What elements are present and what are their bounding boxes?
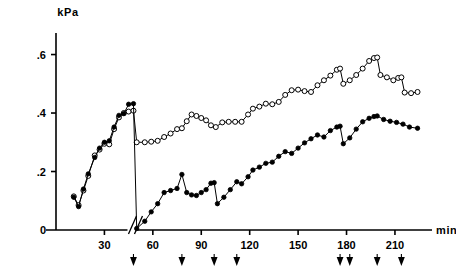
data-point-filled — [131, 101, 135, 105]
data-point-open — [220, 120, 225, 125]
data-point-filled — [235, 180, 239, 184]
arrow-head-icon — [374, 257, 381, 266]
data-point-filled — [264, 161, 268, 165]
data-point-filled — [239, 182, 243, 186]
data-point-open — [360, 66, 365, 71]
data-point-filled — [135, 226, 139, 230]
data-point-filled — [102, 140, 106, 144]
data-point-open — [184, 119, 189, 124]
data-point-filled — [354, 127, 358, 131]
data-point-open — [194, 113, 199, 118]
data-point-filled — [122, 111, 126, 115]
data-point-filled — [381, 117, 385, 121]
event-arrow-marker — [178, 254, 185, 266]
event-arrow-marker — [233, 254, 240, 266]
series-line — [74, 57, 418, 205]
arrow-head-icon — [211, 257, 218, 266]
x-tick-label: 180 — [337, 239, 355, 251]
data-point-filled — [251, 168, 255, 172]
data-point-filled — [270, 160, 274, 164]
event-arrow-marker — [374, 254, 381, 266]
data-point-filled — [117, 113, 121, 117]
data-point-filled — [222, 195, 226, 199]
data-point-open — [162, 135, 167, 140]
y-tick-label: 0 — [40, 224, 46, 236]
arrow-head-icon — [337, 257, 344, 266]
data-point-filled — [107, 139, 111, 143]
event-arrow-marker — [211, 254, 218, 266]
data-point-filled — [283, 149, 287, 153]
data-point-filled — [180, 172, 184, 176]
data-point-filled — [328, 128, 332, 132]
data-point-open — [347, 78, 352, 83]
arrow-head-icon — [233, 257, 240, 266]
data-point-open — [276, 99, 281, 104]
data-point-filled — [97, 146, 101, 150]
data-point-filled — [155, 201, 159, 205]
data-point-filled — [367, 116, 371, 120]
data-point-filled — [149, 210, 153, 214]
data-point-open — [175, 127, 180, 132]
chart-figure: 0.2.4.6306090120150180210kPamin — [0, 0, 456, 275]
data-point-open — [189, 112, 194, 117]
data-point-filled — [360, 120, 364, 124]
data-point-open — [338, 66, 343, 71]
data-point-filled — [175, 186, 179, 190]
data-point-filled — [228, 187, 232, 191]
x-tick-label: 120 — [241, 239, 259, 251]
data-point-open — [283, 92, 288, 97]
data-point-open — [328, 73, 333, 78]
x-tick-label: 60 — [147, 239, 159, 251]
data-point-filled — [215, 201, 219, 205]
data-series-open-circles — [71, 55, 420, 208]
data-point-filled — [394, 120, 398, 124]
data-point-filled — [289, 151, 293, 155]
x-tick-label: 210 — [386, 239, 404, 251]
data-point-filled — [168, 188, 172, 192]
data-point-open — [246, 112, 251, 117]
data-point-open — [142, 140, 147, 145]
data-point-filled — [162, 190, 166, 194]
data-point-open — [302, 89, 307, 94]
arrow-head-icon — [130, 257, 137, 266]
data-point-filled — [204, 187, 208, 191]
data-point-open — [270, 102, 275, 107]
arrow-head-icon — [346, 257, 353, 266]
series-line — [74, 104, 418, 229]
data-point-open — [384, 75, 389, 80]
data-point-filled — [212, 180, 216, 184]
data-point-open — [226, 119, 231, 124]
data-point-filled — [189, 193, 193, 197]
data-point-filled — [93, 155, 97, 159]
data-point-filled — [199, 190, 203, 194]
arrow-head-icon — [398, 257, 405, 266]
data-point-filled — [194, 193, 198, 197]
data-point-open — [399, 75, 404, 80]
x-tick-label: 90 — [195, 239, 207, 251]
data-point-filled — [309, 137, 313, 141]
data-point-filled — [401, 122, 405, 126]
data-point-open — [315, 83, 320, 88]
data-point-filled — [315, 133, 319, 137]
data-point-filled — [338, 124, 342, 128]
data-point-filled — [76, 204, 80, 208]
data-point-open — [168, 131, 173, 136]
data-point-open — [257, 104, 262, 109]
data-point-open — [179, 126, 184, 131]
data-point-filled — [257, 165, 261, 169]
data-point-open — [233, 119, 238, 124]
data-point-open — [391, 78, 396, 83]
data-point-open — [296, 87, 301, 92]
data-series-filled-circles — [72, 101, 420, 230]
data-point-open — [213, 125, 218, 130]
data-point-filled — [246, 175, 250, 179]
data-point-open — [208, 123, 213, 128]
data-point-filled — [185, 190, 189, 194]
data-point-open — [263, 101, 268, 106]
data-point-filled — [388, 119, 392, 123]
data-point-open — [354, 73, 359, 78]
y-tick-label: .2 — [37, 166, 46, 178]
arrow-head-icon — [178, 257, 185, 266]
data-point-filled — [341, 142, 345, 146]
data-point-filled — [126, 102, 130, 106]
